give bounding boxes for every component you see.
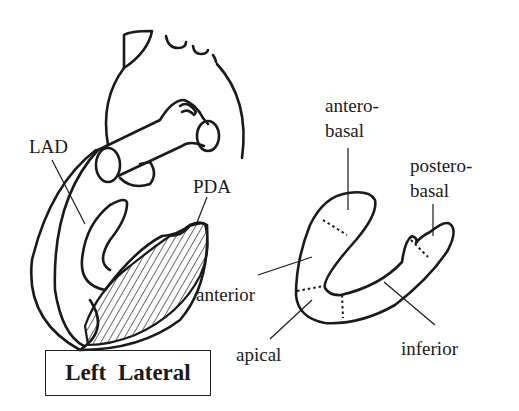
antero-basal-label-line2: basal	[325, 120, 364, 141]
lad-label: LAD	[29, 136, 68, 157]
view-title: Left Lateral	[65, 360, 190, 386]
lv-segment-outline	[296, 192, 454, 323]
inferior-label: inferior	[401, 338, 458, 359]
right-leader-lines	[258, 148, 435, 339]
postero-basal-label-line2: basal	[410, 180, 449, 201]
antero-basal-label-line1: antero-	[325, 95, 379, 116]
pda-label: PDA	[193, 176, 231, 197]
postero-basal-label-line1: postero-	[410, 155, 472, 176]
apical-label: apical	[236, 344, 281, 365]
anterior-label: anterior	[196, 284, 255, 305]
view-title-box: Left Lateral	[45, 350, 211, 396]
